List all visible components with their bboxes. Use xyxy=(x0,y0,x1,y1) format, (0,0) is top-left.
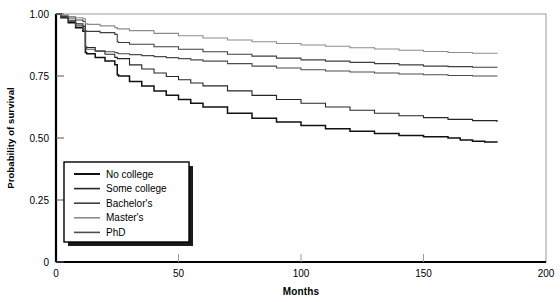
x-tick-label-2: 100 xyxy=(293,268,310,279)
x-tick-label-0: 0 xyxy=(53,268,59,279)
legend-label-master-s: Master's xyxy=(106,212,143,223)
x-tick-label-1: 50 xyxy=(173,268,185,279)
x-axis-title: Months xyxy=(283,286,320,297)
x-tick-label-4: 200 xyxy=(538,268,555,279)
y-tick-label-3: 0.75 xyxy=(30,71,50,82)
survival-curve-figure: 00.250.500.751.00050100150200MonthsProba… xyxy=(0,0,560,302)
legend-label-no-college: No college xyxy=(106,169,154,180)
y-tick-label-4: 1.00 xyxy=(30,9,50,20)
chart-canvas: 00.250.500.751.00050100150200MonthsProba… xyxy=(0,0,560,302)
x-tick-label-3: 150 xyxy=(415,268,432,279)
y-tick-label-1: 0.25 xyxy=(30,195,50,206)
y-tick-label-0: 0 xyxy=(43,257,49,268)
legend-label-bachelor-s: Bachelor's xyxy=(106,198,152,209)
y-axis-title: Probability of survival xyxy=(5,87,16,189)
legend-label-phd: PhD xyxy=(106,227,125,238)
legend-label-some-college: Some college xyxy=(106,183,167,194)
y-tick-label-2: 0.50 xyxy=(30,133,50,144)
